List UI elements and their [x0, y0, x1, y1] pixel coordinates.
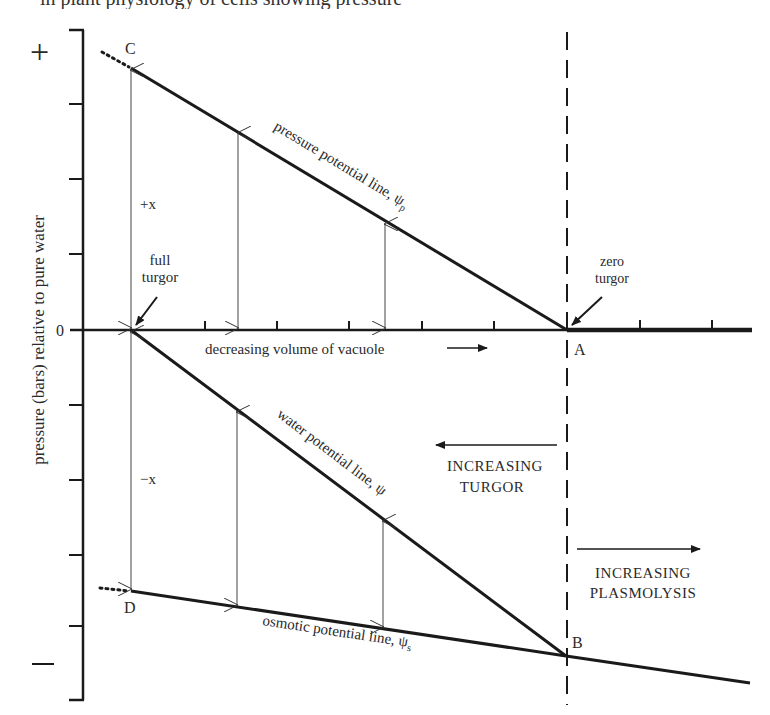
increasing-plasmolysis-label-1: INCREASING: [595, 565, 691, 581]
increasing-turgor-label-2: TURGOR: [460, 479, 525, 495]
zero-label: 0: [56, 322, 64, 339]
osmotic-potential-line: [131, 591, 566, 656]
plus-x-label: +x: [140, 196, 156, 212]
x-axis: [70, 320, 752, 330]
x-axis-label: decreasing volume of vacuole: [205, 341, 385, 357]
zero-turgor-label-2: turgor: [595, 271, 629, 286]
point-c-label: C: [125, 40, 136, 57]
plus-sign: +: [30, 33, 49, 70]
osmotic-line-extension-dots: [100, 588, 129, 591]
increasing-plasmolysis-label-2: PLASMOLYSIS: [590, 585, 697, 601]
full-turgor-label-2: turgor: [142, 269, 178, 285]
point-b-label: B: [572, 634, 583, 651]
y-axis-label: pressure (bars) relative to pure water: [29, 215, 48, 465]
point-d-label: D: [124, 599, 136, 616]
water-relations-diagram: + pressure (bars) relative to pure water…: [0, 0, 770, 715]
pressure-potential-line: [131, 68, 567, 330]
y-axis: [69, 30, 84, 700]
osmotic-line-label: osmotic potential line, ψs: [261, 612, 413, 653]
minus-x-label: −x: [140, 471, 156, 487]
full-turgor-label-1: full: [150, 252, 171, 268]
osmotic-line-plasmolysis: [566, 656, 750, 683]
zero-turgor-pointer-arrow: [572, 297, 602, 325]
zero-turgor-label-1: zero: [600, 254, 624, 269]
y-axis-ticks: [69, 104, 83, 626]
full-turgor-pointer-arrow: [136, 297, 157, 325]
point-a-label: A: [574, 341, 586, 358]
increasing-turgor-label-1: INCREASING: [447, 458, 543, 474]
